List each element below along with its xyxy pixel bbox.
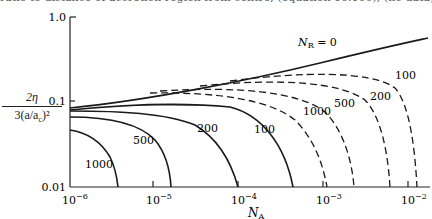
curve-labels: NR = 0 1000 500 200 100 1000 500 200 100 xyxy=(85,36,416,171)
y-tick-label-1: 1.0 xyxy=(49,11,67,24)
x-tick-label-1e-2: 10−2 xyxy=(401,192,427,207)
label-solid-200: 200 xyxy=(197,122,218,135)
y-tick-label-0.01: 0.01 xyxy=(42,181,67,194)
label-dashed-100: 100 xyxy=(395,69,416,82)
curve-solid-100 xyxy=(70,105,293,187)
label-solid-500: 500 xyxy=(133,134,154,147)
y-tick-label-0.1: 0.1 xyxy=(49,95,67,108)
x-tick-label-1e-5: 10−5 xyxy=(146,192,172,207)
x-axis-label: NA xyxy=(247,206,265,219)
label-nr-0: NR = 0 xyxy=(297,36,337,50)
solid-curves xyxy=(70,38,428,187)
curve-dashed-1000 xyxy=(150,93,327,187)
label-dashed-500: 500 xyxy=(334,97,355,110)
label-dashed-200: 200 xyxy=(370,90,391,103)
label-solid-100: 100 xyxy=(254,123,275,136)
curve-solid-500 xyxy=(70,117,171,187)
x-tick-label-1e-6: 10−6 xyxy=(62,192,88,207)
x-tick-labels: 10−6 10−5 10−4 10−3 10−2 xyxy=(62,192,427,207)
x-tick-label-1e-4: 10−4 xyxy=(231,192,257,207)
chart: 1.0 0.1 0.01 10−6 10−5 10−4 10−3 10−2 NA… xyxy=(0,0,432,219)
label-dashed-1000: 1000 xyxy=(303,105,331,118)
label-solid-1000: 1000 xyxy=(85,158,113,171)
x-tick-label-1e-3: 10−3 xyxy=(316,192,342,207)
